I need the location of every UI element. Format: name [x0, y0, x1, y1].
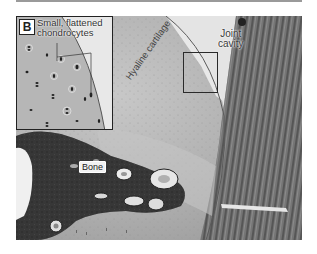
inset-caption: Small, flattened chondrocytes — [37, 18, 102, 38]
bone-label: Bone — [79, 161, 106, 173]
micrograph-figure: B Small, flattened chondrocytes Joint ca… — [16, 16, 302, 240]
joint-cavity-label: Joint cavity — [218, 29, 244, 49]
top-rule — [16, 0, 302, 2]
inset-caption-line2: chondrocytes — [37, 28, 102, 38]
joint-label-line2: cavity — [218, 39, 244, 49]
magnified-region-box — [183, 52, 218, 93]
inset-panel: B Small, flattened chondrocytes — [16, 16, 113, 130]
panel-letter: B — [19, 19, 35, 35]
